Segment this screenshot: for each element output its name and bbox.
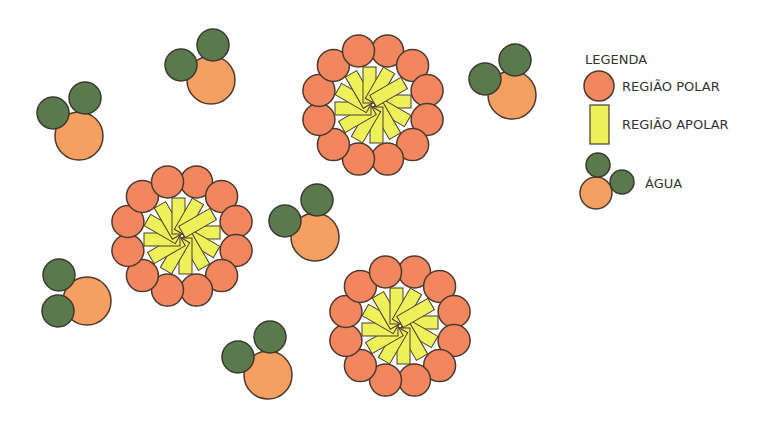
polar-region <box>398 364 430 396</box>
polar-region <box>220 206 252 238</box>
hydrogen-atom <box>42 295 74 327</box>
polar-region <box>411 75 443 107</box>
hydrogen-atom <box>301 184 333 216</box>
hydrogen-atom <box>469 63 501 95</box>
polar-region <box>152 166 184 198</box>
water-molecule <box>222 321 292 399</box>
water-molecule <box>269 184 339 261</box>
water-molecule <box>469 44 536 119</box>
legend-title: LEGENDA <box>585 52 647 67</box>
polar-region <box>330 324 362 356</box>
water-molecule <box>165 29 235 104</box>
apolar-region-icon <box>590 105 609 144</box>
hydrogen-atom <box>222 341 254 373</box>
polar-region <box>180 274 212 306</box>
micelle <box>112 166 252 306</box>
micelle-diagram: LEGENDA REGIÃO POLAR REGIÃO APOLAR ÁGUA <box>0 0 758 421</box>
hydrogen-atom <box>499 44 531 76</box>
water-molecule-icon <box>580 153 634 209</box>
polar-region <box>371 143 403 175</box>
polar-region-icon <box>584 71 614 101</box>
hydrogen-atom <box>254 321 286 353</box>
polar-region <box>112 234 144 266</box>
micelle <box>330 256 470 396</box>
polar-region <box>370 256 402 288</box>
hydrogen-atom <box>165 49 197 81</box>
polar-region <box>303 103 335 135</box>
polar-region <box>343 35 375 67</box>
legend: LEGENDA REGIÃO POLAR REGIÃO APOLAR ÁGUA <box>580 52 729 209</box>
water-molecule <box>42 259 111 327</box>
water-molecule <box>37 82 103 160</box>
micelle <box>303 35 443 175</box>
hydrogen-atom <box>197 29 229 61</box>
legend-polar-label: REGIÃO POLAR <box>622 79 720 94</box>
hydrogen-atom <box>37 97 69 129</box>
hydrogen-atom <box>69 82 101 114</box>
legend-water-label: ÁGUA <box>645 176 682 191</box>
hydrogen-atom <box>43 259 75 291</box>
legend-apolar-label: REGIÃO APOLAR <box>622 117 729 132</box>
polar-region <box>438 296 470 328</box>
hydrogen-atom <box>269 205 301 237</box>
